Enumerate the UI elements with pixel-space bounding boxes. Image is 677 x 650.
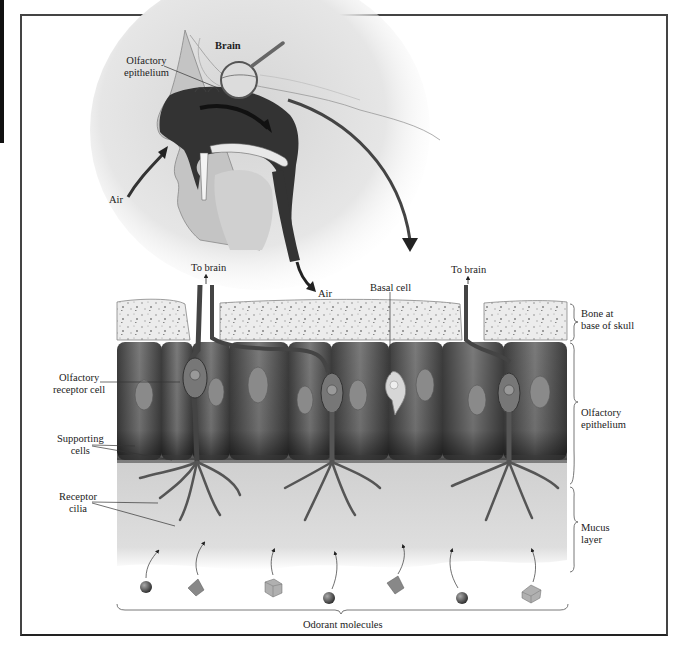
label-receptor-cilia: Receptor cilia [59,491,97,515]
tissue-cross-section [92,276,578,614]
label-supporting-cells: Supporting cells [57,433,104,457]
label-to-brain-right: To brain [451,264,486,276]
label-bone-skull: Bone at base of skull [581,308,634,332]
label-brain: Brain [215,40,241,52]
olfactory-anatomy-illustration [0,0,677,650]
label-basal-cell: Basal cell [370,282,411,294]
label-to-brain-left: To brain [191,262,226,274]
label-olfactory-receptor-cell: Olfactory receptor cell [53,372,105,396]
head-cross-section [90,0,440,292]
label-odorant-molecules: Odorant molecules [303,619,383,631]
label-olfactory-epithelium-head: Olfactory epithelium [124,55,169,79]
skull-bone [117,299,567,340]
label-mucus-layer: Mucus layer [581,522,610,546]
label-air-out: Air [318,288,332,300]
label-air-in: Air [109,194,123,206]
label-olfactory-epithelium-tissue: Olfactory epithelium [581,407,626,431]
